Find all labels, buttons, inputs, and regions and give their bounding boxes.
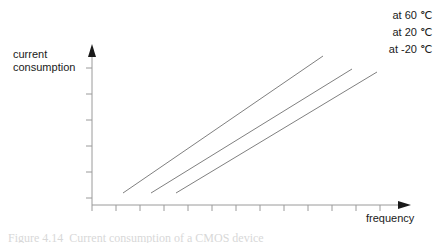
- series-label-60c: at 60 ℃: [392, 9, 432, 22]
- x-axis-ticks: [92, 205, 380, 211]
- y-axis-title: currentconsumption: [13, 48, 75, 74]
- x-axis-arrow-icon: [398, 201, 411, 209]
- y-axis-ticks: [86, 68, 92, 198]
- series-label-20c: at 20 ℃: [392, 26, 432, 39]
- chart-plot-area: [0, 0, 448, 244]
- y-axis-title-line2: consumption: [13, 61, 75, 73]
- series-label-minus20c: at -20 ℃: [389, 43, 432, 56]
- data-line-minus20c: [176, 72, 377, 193]
- x-axis-title: frequency: [366, 212, 414, 225]
- figure-canvas: currentconsumption frequency at 60 ℃ at …: [0, 0, 448, 244]
- y-axis-arrow-icon: [88, 44, 96, 57]
- figure-caption-partial: Figure 4.14 Current consumption of a CMO…: [8, 232, 298, 243]
- data-line-60c: [123, 56, 323, 193]
- y-axis-title-line1: current: [13, 48, 47, 60]
- data-line-20c: [151, 69, 352, 193]
- figure-caption-text: Figure 4.14 Current consumption of a CMO…: [8, 232, 298, 243]
